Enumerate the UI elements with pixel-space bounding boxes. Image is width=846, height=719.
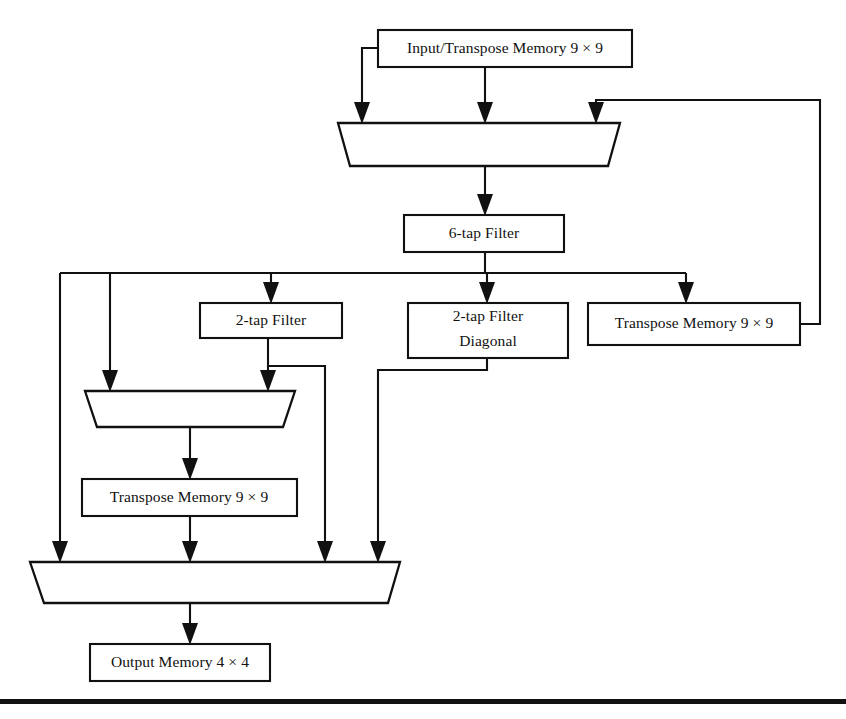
wire-transpose-right-feedback-to-mux-top-in3 — [596, 100, 820, 324]
wire-two-tap-diagonal-to-mux-bottom-in4 — [378, 358, 487, 551]
arrowhead-two-tap-in — [263, 282, 279, 304]
mux-middle[interactable] — [85, 391, 295, 427]
mux-top[interactable] — [338, 123, 620, 166]
block-two-tap-filter-label: 2-tap Filter — [236, 311, 307, 328]
arrowhead-six-tap-in — [477, 194, 493, 216]
block-two-tap-filter-diagonal-label-line1: 2-tap Filter — [453, 307, 524, 324]
arrowhead-mux-bottom-in2 — [182, 541, 198, 563]
footer-divider-rule — [0, 699, 846, 704]
arrowhead-output-memory-in — [182, 623, 198, 645]
arrowhead-mux-bottom-in1 — [52, 541, 68, 563]
arrowhead-transpose-left-in — [182, 458, 198, 480]
arrowhead-mux-top-in3 — [588, 102, 604, 124]
arrowhead-transpose-right-in — [678, 282, 694, 304]
arrowhead-mux-bottom-in4 — [370, 541, 386, 563]
arrowhead-mux-top-in2 — [477, 102, 493, 124]
arrowhead-mux-bottom-in3 — [317, 541, 333, 563]
arrowhead-two-tap-diagonal-in — [479, 282, 495, 304]
block-diagram-figure: Input/Transpose Memory 9 × 9 6-tap Filte… — [0, 0, 846, 719]
arrowhead-mux-middle-in1 — [102, 370, 118, 392]
block-transpose-memory-right-label: Transpose Memory 9 × 9 — [615, 314, 774, 331]
arrowhead-mux-top-in1 — [354, 102, 370, 124]
block-input-transpose-memory-label: Input/Transpose Memory 9 × 9 — [407, 39, 603, 56]
arrowhead-mux-middle-in2 — [260, 370, 276, 392]
diagram-canvas: Input/Transpose Memory 9 × 9 6-tap Filte… — [0, 0, 846, 719]
block-output-memory-label: Output Memory 4 × 4 — [111, 653, 249, 670]
block-two-tap-filter-diagonal-label-line2: Diagonal — [459, 332, 517, 349]
block-transpose-memory-left-label: Transpose Memory 9 × 9 — [110, 488, 269, 505]
mux-bottom[interactable] — [30, 562, 400, 603]
block-six-tap-filter-label: 6-tap Filter — [449, 224, 520, 241]
